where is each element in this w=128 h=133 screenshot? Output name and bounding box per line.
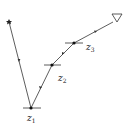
node-label: z3 <box>85 42 95 53</box>
path-diagram: z1 z2 z3 <box>0 0 128 133</box>
node-label: z1 <box>26 113 36 124</box>
triangle-icon <box>112 14 122 22</box>
node-z1: z1 <box>23 106 41 124</box>
star-icon <box>6 19 12 25</box>
arrow-icon <box>18 59 21 62</box>
node-label: z2 <box>57 73 67 84</box>
